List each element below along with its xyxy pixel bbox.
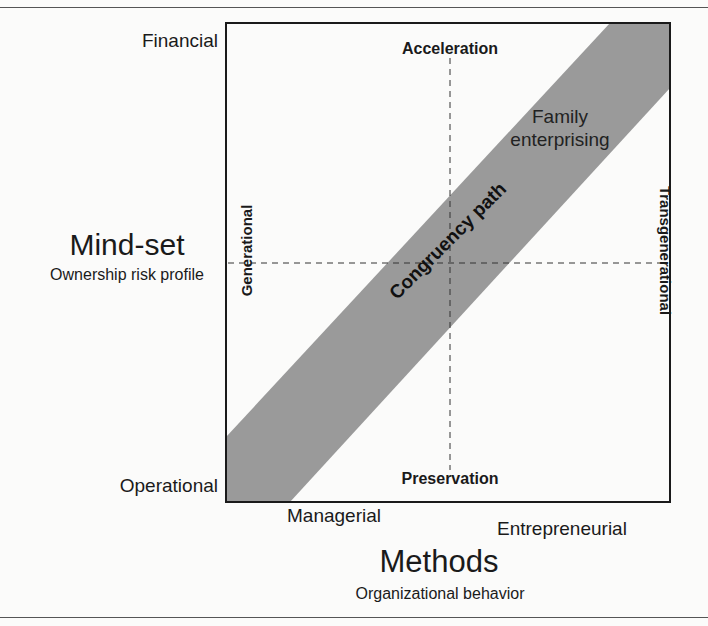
y-top-label: Financial	[142, 30, 218, 52]
inner-top-label: Acceleration	[400, 40, 500, 58]
inner-left-label: Generational	[238, 196, 255, 306]
band-end-label-line2: enterprising	[500, 129, 620, 151]
x-right-label: Entrepreneurial	[497, 518, 627, 540]
band-end-label-line1: Family	[500, 106, 620, 128]
x-left-label: Managerial	[287, 505, 381, 527]
x-axis-title: Methods	[354, 544, 524, 580]
inner-bottom-label: Preservation	[398, 470, 502, 488]
y-axis-title: Mind-set	[52, 228, 202, 262]
y-axis-subtitle: Ownership risk profile	[22, 266, 232, 284]
x-axis-subtitle: Organizational behavior	[345, 585, 535, 603]
inner-right-label: Transgenerational	[657, 166, 674, 336]
y-bottom-label: Operational	[120, 475, 218, 497]
